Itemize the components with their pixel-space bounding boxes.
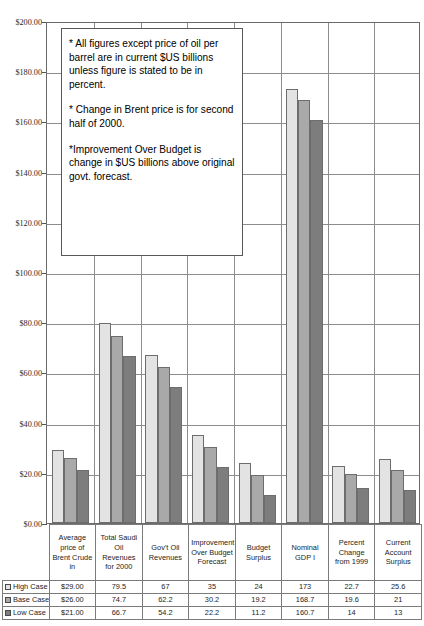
table-cell: 13: [375, 607, 422, 620]
table-cell: 22.2: [189, 607, 236, 620]
y-axis-tick-label: $40.00: [0, 419, 42, 428]
table-column-header: Percent Change from 1999: [328, 525, 375, 581]
table-body: High Case$29.0079.567352417322.725.6Base…: [3, 581, 422, 620]
y-axis-tick-label: $180.00: [0, 68, 42, 77]
legend-label: Low Case: [13, 608, 46, 617]
table-header-row: Average price of Brent Crude inTotal Sau…: [3, 525, 422, 581]
bar: [298, 100, 310, 523]
table-cell: 25.6: [375, 581, 422, 594]
bar-chart-figure: $0.00$20.00$40.00$60.00$80.00$100.00$120…: [0, 0, 424, 626]
bar: [145, 355, 157, 523]
table-cell: 22.7: [328, 581, 375, 594]
bar: [286, 89, 298, 523]
bar: [404, 490, 416, 523]
bar: [357, 488, 369, 523]
table-cell: 54.2: [142, 607, 189, 620]
table-column-header: Current Account Surplus: [375, 525, 422, 581]
table-column-header: Average price of Brent Crude in: [49, 525, 96, 581]
table-cell: 30.2: [189, 594, 236, 607]
table-corner-cell: [3, 525, 50, 581]
table-cell: 11.2: [235, 607, 282, 620]
bar: [239, 463, 251, 523]
bar: [158, 367, 170, 523]
bar: [170, 387, 182, 523]
y-axis: $0.00$20.00$40.00$60.00$80.00$100.00$120…: [0, 14, 42, 524]
y-axis-tick-label: $120.00: [0, 218, 42, 227]
annotation-note-box: * All figures except price of oil per ba…: [61, 28, 243, 256]
table-column-header: Total Saudi Oil Revenues for 2000: [96, 525, 143, 581]
legend-entry-low-case: Low Case: [3, 607, 50, 620]
bar: [310, 120, 322, 523]
table-column-header: Nominal GDP I: [282, 525, 329, 581]
bar: [379, 459, 391, 523]
bar: [264, 495, 276, 523]
table-column-header: Improvement Over Budget Forecast: [189, 525, 236, 581]
note-paragraph-1: * All figures except price of oil per ba…: [69, 37, 235, 91]
table-cell: 173: [282, 581, 329, 594]
y-axis-tick-label: $80.00: [0, 319, 42, 328]
table-cell: $21.00: [49, 607, 96, 620]
legend-swatch-icon: [5, 584, 11, 590]
table-column-header: Gov't Oil Revenues: [142, 525, 189, 581]
bar: [123, 356, 135, 523]
y-axis-tick-label: $200.00: [0, 18, 42, 27]
y-axis-tick-label: $160.00: [0, 118, 42, 127]
table-row: High Case$29.0079.567352417322.725.6: [3, 581, 422, 594]
table-cell: $29.00: [49, 581, 96, 594]
table-cell: 14: [328, 607, 375, 620]
legend-label: Base Case: [13, 595, 49, 604]
bar: [217, 467, 229, 523]
table-cell: 67: [142, 581, 189, 594]
note-paragraph-2: * Change in Brent price is for second ha…: [69, 103, 235, 130]
table-cell: 79.5: [96, 581, 143, 594]
table-cell: 35: [189, 581, 236, 594]
table-cell: 19.6: [328, 594, 375, 607]
table-cell: 62.2: [142, 594, 189, 607]
table-cell: 66.7: [96, 607, 143, 620]
bar: [204, 447, 216, 523]
y-axis-tick-label: $100.00: [0, 269, 42, 278]
legend-entry-base-case: Base Case: [3, 594, 50, 607]
table-cell: 19.2: [235, 594, 282, 607]
table-cell: 74.7: [96, 594, 143, 607]
table-column-header: Budget Surplus: [235, 525, 282, 581]
bar: [111, 336, 123, 523]
table-cell: 24: [235, 581, 282, 594]
bar: [99, 323, 111, 523]
y-axis-tick-label: $60.00: [0, 369, 42, 378]
bar: [192, 435, 204, 523]
y-axis-tick-label: $20.00: [0, 469, 42, 478]
table-cell: 160.7: [282, 607, 329, 620]
data-table: Average price of Brent Crude inTotal Sau…: [2, 524, 422, 620]
table-row: Low Case$21.0066.754.222.211.2160.71413: [3, 607, 422, 620]
bar: [391, 470, 403, 523]
bar: [251, 475, 263, 523]
legend-entry-high-case: High Case: [3, 581, 50, 594]
table-cell: $26.00: [49, 594, 96, 607]
y-axis-tick-label: $140.00: [0, 168, 42, 177]
table-cell: 168.7: [282, 594, 329, 607]
bar: [345, 474, 357, 523]
bar: [77, 470, 89, 523]
legend-swatch-icon: [5, 610, 11, 616]
note-paragraph-3: *Improvement Over Budget is change in $U…: [69, 143, 235, 184]
bar: [64, 458, 76, 523]
legend-swatch-icon: [5, 597, 11, 603]
bar: [52, 450, 64, 523]
table-row: Base Case$26.0074.762.230.219.2168.719.6…: [3, 594, 422, 607]
bar: [332, 466, 344, 523]
legend-label: High Case: [13, 582, 48, 591]
table-cell: 21: [375, 594, 422, 607]
